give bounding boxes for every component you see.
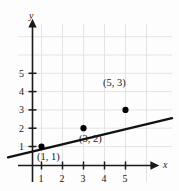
point-label-5-3: (5, 3) <box>103 78 126 89</box>
graph-canvas <box>0 0 179 191</box>
y-tick-label-3: 3 <box>19 105 24 115</box>
data-point-1-1 <box>38 143 44 149</box>
point-label-1-1: (1, 1) <box>37 152 60 163</box>
plot-background <box>0 0 179 191</box>
x-tick-label-5: 5 <box>123 174 128 184</box>
data-point-3-2 <box>80 125 86 131</box>
x-tick-label-3: 3 <box>81 174 86 184</box>
y-axis-label: y <box>29 11 33 21</box>
point-label-3-2: (3, 2) <box>79 134 102 145</box>
coordinate-plane-figure: y x 1 2 3 4 5 1 2 3 4 5 (1, 1) (3, 2) (5… <box>0 0 179 191</box>
y-tick-label-5: 5 <box>19 69 24 79</box>
y-tick-label-4: 4 <box>19 87 24 97</box>
y-tick-label-1: 1 <box>19 142 24 152</box>
x-tick-label-1: 1 <box>39 174 44 184</box>
y-tick-label-2: 2 <box>19 124 24 134</box>
data-point-5-3 <box>122 107 128 113</box>
x-axis-label: x <box>163 160 167 170</box>
x-tick-label-2: 2 <box>60 174 65 184</box>
x-tick-label-4: 4 <box>102 174 107 184</box>
